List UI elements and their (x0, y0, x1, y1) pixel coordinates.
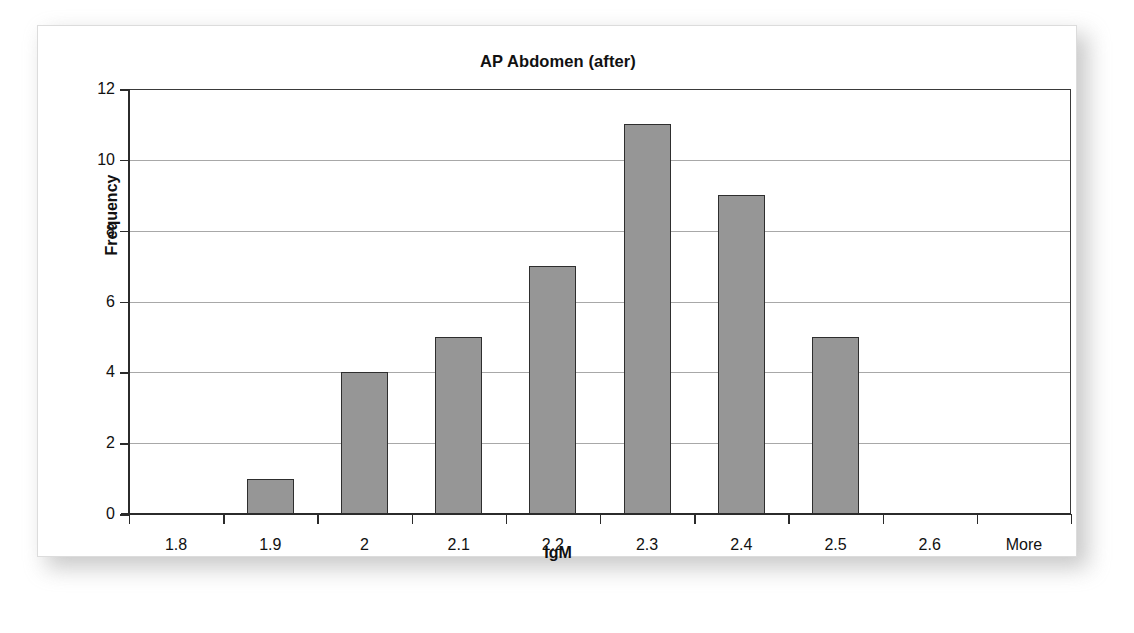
x-axis-tick (506, 514, 507, 524)
x-axis-line (121, 513, 1071, 515)
bar-2 (341, 372, 388, 514)
plot-area: 121086420 1.81.922.12.22.32.42.52.6More (129, 89, 1071, 514)
x-axis-tick-label: 2.3 (636, 536, 658, 554)
x-axis-tick-label: 2 (360, 536, 369, 554)
y-axis-tick-label: 2 (106, 434, 115, 452)
page-root: AP Abdomen (after) Frequency IgM 1210864… (0, 0, 1134, 633)
x-axis-tick-label: 1.8 (165, 536, 187, 554)
y-axis-tick-label: 6 (106, 293, 115, 311)
y-axis-tick (120, 231, 129, 233)
x-axis-tick-label: 2.4 (730, 536, 752, 554)
x-axis-tick (694, 514, 695, 524)
x-axis-tick (977, 514, 978, 524)
x-axis-tick (317, 514, 318, 524)
y-axis-tick-label: 10 (97, 151, 115, 169)
x-axis-tick (600, 514, 601, 524)
y-axis-tick (120, 372, 129, 374)
y-axis-tick (120, 89, 129, 91)
x-axis-tick-label: 2.6 (919, 536, 941, 554)
x-axis-tick-label: 2.5 (824, 536, 846, 554)
y-axis-tick-label: 0 (106, 505, 115, 523)
y-axis-tick-label: 12 (97, 80, 115, 98)
x-axis-tick (883, 514, 884, 524)
bar-2.5 (812, 337, 859, 514)
bar-1.9 (247, 479, 294, 514)
x-axis-tick-label: 2.2 (542, 536, 564, 554)
bar-2.3 (624, 124, 671, 514)
y-axis-tick-label: 8 (106, 222, 115, 240)
x-axis-tick (788, 514, 789, 524)
y-axis-tick (120, 514, 129, 516)
y-axis-tick (120, 443, 129, 445)
bar-2.2 (529, 266, 576, 514)
x-axis-tick-label: 2.1 (448, 536, 470, 554)
x-axis-tick (223, 514, 224, 524)
bar-2.4 (718, 195, 765, 514)
chart-panel: AP Abdomen (after) Frequency IgM 1210864… (37, 25, 1077, 557)
x-axis-tick (1071, 514, 1072, 524)
y-axis-tick (120, 302, 129, 304)
x-axis-tick-label: 1.9 (259, 536, 281, 554)
x-axis-tick-label: More (1006, 536, 1042, 554)
bars-layer (129, 89, 1071, 514)
x-axis-tick (412, 514, 413, 524)
y-axis-tick (120, 160, 129, 162)
y-axis-tick-label: 4 (106, 363, 115, 381)
bar-2.1 (435, 337, 482, 514)
chart-title: AP Abdomen (after) (38, 52, 1078, 71)
x-axis-tick (129, 514, 130, 524)
